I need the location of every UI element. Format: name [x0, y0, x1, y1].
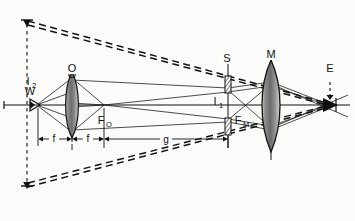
label-focal-magnifier: F: [235, 114, 242, 126]
label-image-i2-subscript: 2: [32, 81, 36, 90]
label-magnifier-m: M: [266, 48, 275, 60]
label-objective-o-top: O: [68, 62, 77, 74]
optical-diagram: W O O S I 1 F M: [0, 0, 355, 221]
label-eye-e: E: [326, 62, 333, 74]
dim-label-g: g: [163, 134, 169, 145]
label-focal-objective-subscript: O: [106, 120, 112, 129]
label-image-i2: I: [26, 75, 29, 87]
label-image-i1: I: [213, 95, 216, 107]
dim-label-f-right: f: [87, 133, 90, 144]
dim-label-f-left: f: [53, 133, 56, 144]
aperture-blade-icon-lower: [225, 118, 231, 135]
diagram-canvas: W O O S I 1 F M: [0, 0, 355, 221]
aperture-blade-icon-upper: [225, 76, 231, 93]
label-focal-magnifier-subscript: M: [243, 120, 249, 129]
paper-background: [0, 0, 355, 221]
label-image-i1-subscript: 1: [219, 101, 223, 110]
label-stop-s: S: [223, 52, 230, 64]
